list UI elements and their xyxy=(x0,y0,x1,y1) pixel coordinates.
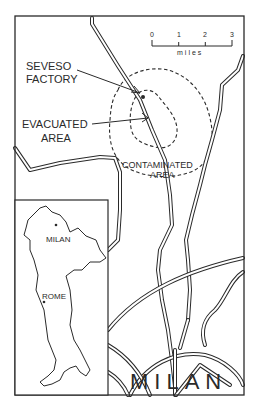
label-milan-city: MILAN xyxy=(130,369,227,394)
seveso-map: MILAN ROME SEVESO FACTORY EVACUATED AREA… xyxy=(0,0,258,407)
scale-unit: miles xyxy=(177,49,203,56)
label-factory: FACTORY xyxy=(26,73,78,85)
factory-leader xyxy=(77,70,140,93)
evacuated-leader xyxy=(92,118,148,124)
label-evacuated: EVACUATED xyxy=(22,118,88,130)
label-contaminated: CONTAMINATED xyxy=(122,160,193,170)
scale-bar: 0 1 2 3 miles xyxy=(150,31,234,56)
scale-tick-1: 1 xyxy=(177,31,181,38)
milan-dot xyxy=(55,224,58,227)
inset-label-rome: ROME xyxy=(42,292,66,301)
label-seveso: SEVESO xyxy=(26,60,72,72)
factory-dot xyxy=(141,95,145,99)
scale-tick-3: 3 xyxy=(230,31,234,38)
label-evacuated-area: AREA xyxy=(41,132,72,144)
rome-dot xyxy=(43,301,46,304)
inset-label-milan: MILAN xyxy=(46,235,71,244)
scale-tick-2: 2 xyxy=(203,31,207,38)
scale-tick-0: 0 xyxy=(150,31,154,38)
label-contaminated-area: AREA xyxy=(150,170,175,180)
